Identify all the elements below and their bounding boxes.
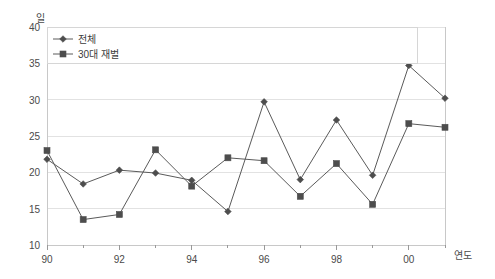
- x-tick-label-00: 00: [403, 254, 415, 265]
- chart-page: 10152025303540 909294969800 일 연도 전체 30대 …: [0, 0, 495, 279]
- data-point: [442, 124, 448, 130]
- data-point: [44, 156, 51, 163]
- series-layer: [44, 62, 449, 222]
- y-tick-labels: 10152025303540: [29, 22, 41, 251]
- legend-label-total: 전체: [78, 34, 96, 45]
- x-tick-labels: 909294969800: [41, 254, 414, 265]
- legend: 전체 30대 재벌: [47, 27, 417, 63]
- y-tick-label-10: 10: [29, 240, 41, 251]
- x-tick-label-96: 96: [259, 254, 271, 265]
- y-axis-unit-label: 일: [36, 13, 45, 24]
- data-point: [261, 158, 267, 164]
- data-point: [297, 193, 303, 199]
- data-point: [116, 211, 122, 217]
- y-tick-label-15: 15: [29, 204, 41, 215]
- data-point: [333, 117, 340, 124]
- data-point: [333, 161, 339, 167]
- legend-marker-square: [60, 51, 66, 57]
- data-point: [370, 201, 376, 207]
- data-point: [189, 183, 195, 189]
- x-tick-label-92: 92: [114, 254, 126, 265]
- series-total: [44, 62, 449, 215]
- data-point: [152, 170, 159, 177]
- data-point: [80, 217, 86, 223]
- data-point: [406, 121, 412, 127]
- data-point: [44, 148, 50, 154]
- y-tick-label-25: 25: [29, 131, 41, 142]
- line-chart: 10152025303540 909294969800 일 연도 전체 30대 …: [0, 0, 495, 279]
- series-line: [47, 66, 445, 212]
- x-tick-label-90: 90: [41, 254, 53, 265]
- x-tick-label-94: 94: [186, 254, 198, 265]
- y-tick-label-20: 20: [29, 167, 41, 178]
- data-point: [80, 181, 87, 188]
- data-point: [153, 147, 159, 153]
- y-tick-label-30: 30: [29, 95, 41, 106]
- x-tick-marks: [47, 245, 445, 250]
- data-point: [225, 155, 231, 161]
- legend-label-chaebol: 30대 재벌: [78, 49, 119, 60]
- data-point: [297, 176, 304, 183]
- x-axis-unit-label: 연도: [454, 250, 472, 261]
- x-tick-label-98: 98: [331, 254, 343, 265]
- data-point: [369, 172, 376, 179]
- y-tick-label-35: 35: [29, 58, 41, 69]
